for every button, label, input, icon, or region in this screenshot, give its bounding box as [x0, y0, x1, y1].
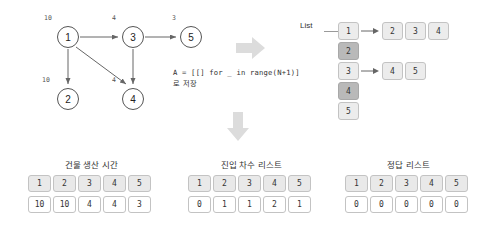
adjacency-list: List 1234234545 — [300, 14, 485, 134]
table-value-cell[interactable]: 0 — [395, 196, 418, 213]
code-line: A = [[] for _ in range(N+1)] — [173, 67, 298, 78]
adjacency-arrow-3 — [361, 65, 381, 77]
table-value-cell[interactable]: 0 — [420, 196, 443, 213]
adjacency-key-1[interactable]: 1 — [338, 22, 359, 40]
adjacency-value-3-4[interactable]: 4 — [382, 62, 403, 80]
table-value-cell[interactable]: 4 — [103, 196, 126, 213]
table-value-row-1: 01121 — [188, 196, 311, 213]
table-header-cell[interactable]: 1 — [188, 175, 211, 192]
table-value-cell[interactable]: 1 — [213, 196, 236, 213]
table-header-cell[interactable]: 5 — [288, 175, 311, 192]
code-snippet: A = [[] for _ in range(N+1)] 로 저장 — [173, 67, 298, 89]
table-value-cell[interactable]: 0 — [445, 196, 468, 213]
graph-node-1[interactable]: 1 — [57, 26, 79, 48]
node-weight-1: 10 — [44, 14, 52, 22]
adjacency-value-1-4[interactable]: 4 — [428, 22, 449, 40]
table-value-cell[interactable]: 1 — [238, 196, 261, 213]
table-header-cell[interactable]: 2 — [53, 175, 76, 192]
adjacency-arrow-1 — [361, 25, 381, 37]
table-1: 진입 차수 리스트1234501121 — [188, 158, 315, 213]
table-header-cell[interactable]: 1 — [28, 175, 51, 192]
list-label-connector — [324, 31, 338, 32]
node-weight-3: 4 — [112, 14, 116, 22]
table-value-cell[interactable]: 2 — [263, 196, 286, 213]
table-header-cell[interactable]: 4 — [420, 175, 443, 192]
table-value-cell[interactable]: 10 — [28, 196, 51, 213]
edge-1-to-4 — [76, 47, 126, 84]
adjacency-value-1-3[interactable]: 3 — [405, 22, 426, 40]
node-weight-4: 4 — [112, 76, 116, 84]
table-2: 정답 리스트1234500000 — [345, 158, 472, 213]
graph-node-2[interactable]: 2 — [57, 88, 79, 110]
table-caption-1: 진입 차수 리스트 — [188, 158, 315, 170]
table-header-cell[interactable]: 2 — [213, 175, 236, 192]
table-header-cell[interactable]: 3 — [238, 175, 261, 192]
adjacency-key-4[interactable]: 4 — [338, 82, 359, 100]
dependency-graph: 101433510244 — [0, 0, 230, 130]
table-header-row-2: 12345 — [345, 175, 468, 192]
table-caption-2: 정답 리스트 — [345, 158, 472, 170]
table-header-cell[interactable]: 3 — [78, 175, 101, 192]
table-value-cell[interactable]: 1 — [288, 196, 311, 213]
table-header-cell[interactable]: 2 — [370, 175, 393, 192]
table-value-cell[interactable]: 0 — [188, 196, 211, 213]
adjacency-list-label: List — [300, 21, 312, 30]
table-value-cell[interactable]: 3 — [128, 196, 151, 213]
table-value-cell[interactable]: 0 — [345, 196, 368, 213]
table-header-cell[interactable]: 3 — [395, 175, 418, 192]
graph-node-4[interactable]: 4 — [122, 88, 144, 110]
table-header-cell[interactable]: 5 — [445, 175, 468, 192]
table-header-cell[interactable]: 1 — [345, 175, 368, 192]
table-caption-0: 건물 생산 시간 — [28, 158, 155, 170]
adjacency-value-3-5[interactable]: 5 — [405, 62, 426, 80]
table-value-cell[interactable]: 10 — [53, 196, 76, 213]
flow-arrow-right — [236, 37, 266, 59]
adjacency-value-1-2[interactable]: 2 — [382, 22, 403, 40]
table-0: 건물 생산 시간123451010443 — [28, 158, 155, 213]
flow-arrow-down — [227, 112, 249, 142]
table-header-row-1: 12345 — [188, 175, 311, 192]
table-header-row-0: 12345 — [28, 175, 151, 192]
adjacency-key-3[interactable]: 3 — [338, 62, 359, 80]
table-value-row-2: 00000 — [345, 196, 468, 213]
node-weight-5: 3 — [172, 14, 176, 22]
diagram-canvas: 101433510244 A = [[] for _ in range(N+1)… — [0, 0, 485, 239]
table-value-cell[interactable]: 0 — [370, 196, 393, 213]
table-header-cell[interactable]: 5 — [128, 175, 151, 192]
graph-node-3[interactable]: 3 — [122, 26, 144, 48]
adjacency-key-2[interactable]: 2 — [338, 42, 359, 60]
graph-node-5[interactable]: 5 — [180, 26, 202, 48]
node-weight-2: 10 — [42, 76, 50, 84]
table-header-cell[interactable]: 4 — [263, 175, 286, 192]
table-value-row-0: 1010443 — [28, 196, 151, 213]
table-value-cell[interactable]: 4 — [78, 196, 101, 213]
table-header-cell[interactable]: 4 — [103, 175, 126, 192]
code-note: 로 저장 — [173, 78, 298, 89]
adjacency-key-5[interactable]: 5 — [338, 102, 359, 120]
